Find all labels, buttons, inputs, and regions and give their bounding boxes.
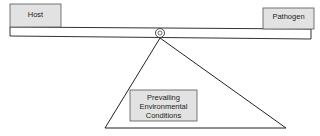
conditions-label-3: Conditions <box>146 111 182 120</box>
balance-diagram: Host Pathogen Prevailing Environmental C… <box>0 0 320 136</box>
pathogen-label: Pathogen <box>272 12 304 21</box>
conditions-label-1: Prevailing <box>147 93 180 102</box>
pivot-icon <box>156 29 165 38</box>
conditions-label-2: Environmental <box>140 102 188 111</box>
host-label: Host <box>28 10 44 19</box>
